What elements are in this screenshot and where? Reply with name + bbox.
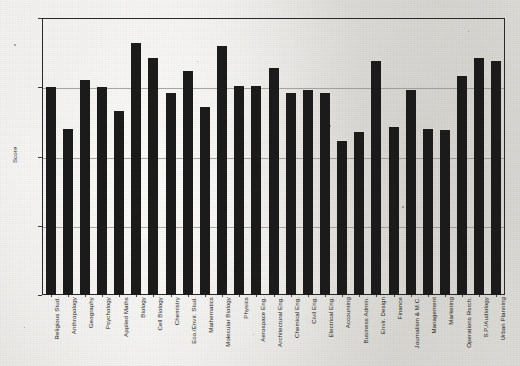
y-axis-title: Score	[11, 147, 18, 163]
x-tick-label: Accounting	[344, 297, 351, 328]
bar	[63, 129, 73, 295]
x-tick-mark	[256, 295, 257, 297]
x-tick-label: Anthropology	[70, 297, 77, 334]
x-tick-mark	[171, 295, 172, 297]
x-tick-mark	[376, 295, 377, 297]
bar	[80, 80, 90, 295]
x-tick-label: Physics	[242, 297, 249, 319]
x-tick-mark	[411, 295, 412, 297]
dust-speck	[24, 327, 25, 328]
x-axis-labels: Religious Stud.AnthropologyGeographyPsyc…	[42, 297, 505, 366]
bar	[217, 46, 227, 295]
bar	[423, 129, 433, 295]
bar	[183, 71, 193, 295]
bar	[200, 107, 210, 295]
dust-speck	[14, 44, 16, 46]
x-tick-mark	[153, 295, 154, 297]
x-tick-mark	[428, 295, 429, 297]
x-tick-label: Business Admin.	[362, 297, 369, 344]
x-tick-label: Cell Biology	[156, 297, 163, 330]
x-tick-label: Geography	[87, 297, 94, 328]
bar	[303, 90, 313, 295]
bar	[148, 58, 158, 295]
bar	[371, 61, 381, 295]
x-tick-mark	[479, 295, 480, 297]
bar	[389, 127, 399, 295]
x-tick-label: Civil Eng.	[310, 297, 317, 324]
x-tick-mark	[222, 295, 223, 297]
x-tick-label: Chemistry	[173, 297, 180, 325]
bar	[131, 43, 141, 295]
x-tick-mark	[342, 295, 343, 297]
x-tick-label: Electrical Eng.	[327, 297, 334, 337]
bar	[320, 93, 330, 295]
x-tick-label: Aerospace Eng.	[259, 297, 266, 342]
x-tick-label: Religious Stud.	[53, 297, 60, 340]
bar	[457, 76, 467, 295]
bar	[251, 86, 261, 295]
x-tick-mark	[445, 295, 446, 297]
bar	[234, 86, 244, 295]
x-tick-label: Marketing	[447, 297, 454, 325]
x-tick-label: Biology	[139, 297, 146, 318]
x-tick-label: Journalism & M.C.	[413, 297, 420, 348]
x-tick-label: Applied Maths	[122, 297, 129, 337]
bar	[354, 132, 364, 295]
bar	[46, 87, 56, 295]
x-tick-label: Management	[430, 297, 437, 334]
x-tick-label: Finance	[396, 297, 403, 319]
x-tick-label: Psychology	[104, 297, 111, 329]
x-tick-mark	[291, 295, 292, 297]
bar	[474, 58, 484, 295]
x-tick-label: Chemical Eng.	[293, 297, 300, 338]
x-tick-mark	[394, 295, 395, 297]
y-tick-mark	[38, 295, 42, 296]
x-tick-mark	[85, 295, 86, 297]
x-tick-mark	[496, 295, 497, 297]
bar	[337, 141, 347, 295]
x-tick-mark	[205, 295, 206, 297]
x-tick-label: Mathematics	[207, 297, 214, 333]
x-tick-mark	[102, 295, 103, 297]
bar	[97, 87, 107, 295]
x-tick-label: Urban Planning	[499, 297, 506, 340]
x-tick-label: Envir. Design	[379, 297, 386, 334]
bar	[406, 90, 416, 295]
bar	[114, 111, 124, 295]
x-tick-mark	[119, 295, 120, 297]
x-tick-label: S.P./Audiology	[482, 297, 489, 338]
x-tick-label: Molecular Biology	[224, 297, 231, 347]
x-tick-mark	[274, 295, 275, 297]
x-tick-label: Operations Rsrch.	[465, 297, 472, 348]
bar	[166, 93, 176, 295]
x-tick-label: Architectural Eng.	[276, 297, 283, 347]
bar	[286, 93, 296, 295]
x-tick-mark	[462, 295, 463, 297]
x-tick-mark	[136, 295, 137, 297]
x-tick-label: Eco./Envir. Stud.	[190, 297, 197, 344]
x-tick-mark	[188, 295, 189, 297]
x-tick-mark	[51, 295, 52, 297]
bar	[269, 68, 279, 295]
x-tick-mark	[359, 295, 360, 297]
x-tick-mark	[308, 295, 309, 297]
bar	[440, 130, 450, 295]
x-tick-mark	[239, 295, 240, 297]
chart-page: Score 5.004.504.003.503.00 Religious Stu…	[0, 0, 520, 366]
bar	[491, 61, 501, 295]
x-tick-mark	[325, 295, 326, 297]
x-tick-mark	[68, 295, 69, 297]
bar-series	[42, 18, 505, 295]
